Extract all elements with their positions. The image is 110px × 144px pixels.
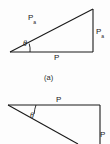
panel-b-angle-label: θ — [30, 112, 34, 120]
panel-b-angle-arc — [34, 105, 36, 114]
panel-a-hypotenuse-label: Pa — [28, 14, 36, 24]
figure-container: Pa Pa P θ (a) P θ P — [0, 0, 110, 144]
panel-b-top-label: P — [56, 96, 61, 104]
panel-a-angle-arc — [29, 44, 30, 52]
panel-b-hypotenuse-line — [8, 105, 78, 144]
panel-a-vertical-label: Pa — [96, 28, 104, 38]
panel-a-angle-label: θ — [23, 40, 27, 48]
panel-a-vertical-subscript: a — [101, 33, 104, 39]
panel-a-base-label: P — [54, 54, 59, 62]
panel-a-caption: (a) — [44, 73, 53, 82]
figure-lines — [0, 0, 110, 144]
panel-b-vertical-label: P — [100, 131, 105, 139]
panel-a-hypotenuse-subscript: a — [33, 19, 36, 25]
